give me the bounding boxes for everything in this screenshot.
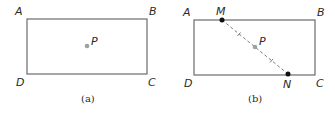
point-label-n: N	[283, 78, 291, 91]
vertex-label-a: A	[14, 5, 23, 18]
point-label-m: M	[216, 5, 226, 18]
vertex-label-d: D	[184, 77, 192, 90]
point-label-p-a: P	[91, 35, 98, 48]
vertex-label-c: C	[316, 77, 324, 90]
figure-b: A B C D M N P (b)	[182, 5, 325, 104]
point-p-b	[253, 45, 258, 50]
point-p-a	[85, 44, 90, 49]
vertex-label-c: C	[148, 76, 156, 89]
point-label-p-b: P	[259, 35, 266, 48]
caption-b: (b)	[248, 93, 262, 104]
vertex-label-b: B	[317, 6, 325, 19]
vertex-label-a: A	[182, 6, 191, 19]
diagram-canvas: A B C D P (a) A B C D M N P (b)	[0, 0, 335, 113]
caption-a: (a)	[81, 93, 95, 104]
point-m	[220, 18, 225, 23]
vertex-label-d: D	[16, 76, 24, 89]
point-n	[286, 72, 291, 77]
vertex-label-b: B	[149, 5, 157, 18]
figure-a: A B C D P (a)	[14, 5, 157, 104]
